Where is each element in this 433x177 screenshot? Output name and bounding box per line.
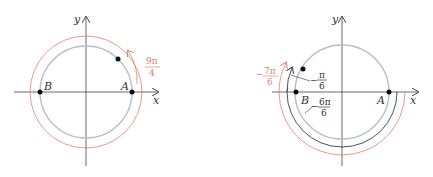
point-terminal: [301, 67, 306, 72]
point-a-label: A: [376, 94, 385, 107]
point-b-label: B: [43, 80, 52, 93]
unit-circle-diagrams: y x A B 9π 4 y x A B − 7π 6 − π 6: [0, 0, 433, 177]
angle-numerator: 9π: [146, 56, 158, 66]
y-axis-label: y: [73, 13, 81, 26]
point-b: [294, 90, 299, 95]
point-a: [130, 90, 135, 95]
neg-6pi6-denominator: 6: [321, 108, 327, 118]
angle-denominator: 4: [149, 68, 155, 78]
point-a: [387, 90, 392, 95]
point-b-label: B: [300, 94, 309, 107]
neg-pi6-minus: −: [310, 75, 318, 85]
neg-7pi6-denominator: 6: [267, 77, 273, 87]
neg-7pi6-numerator: 7π: [264, 66, 276, 76]
x-axis-label: x: [153, 94, 160, 107]
neg-pi6-denominator: 6: [319, 81, 325, 91]
y-axis-label: y: [331, 13, 339, 26]
neg-pi6-numerator: π: [319, 70, 325, 80]
point-b: [38, 90, 43, 95]
leader-pi6: [291, 75, 310, 81]
point-a-label: A: [120, 80, 129, 93]
point-terminal: [116, 57, 121, 62]
x-axis-label: x: [410, 94, 417, 107]
right-diagram: y x A B − 7π 6 − π 6 − 6π 6: [256, 13, 418, 166]
neg-6pi6-minus: −: [311, 101, 319, 111]
neg-6pi6-numerator: 6π: [319, 97, 331, 107]
neg-7pi6-minus: −: [256, 69, 264, 79]
left-diagram: y x A B 9π 4: [14, 13, 160, 166]
